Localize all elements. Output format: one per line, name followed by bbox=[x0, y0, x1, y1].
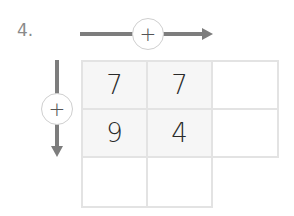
arrow-down-icon bbox=[51, 146, 63, 157]
grid-cell-r1-c2-answer[interactable] bbox=[211, 108, 279, 158]
horizontal-plus-operator: + bbox=[132, 18, 164, 50]
grid-cell-r2-c0-answer[interactable] bbox=[81, 156, 148, 208]
grid-cell-r0-c1: 7 bbox=[146, 60, 213, 110]
addition-grid: 7 7 9 4 bbox=[81, 60, 279, 208]
problem-number: 4. bbox=[17, 20, 33, 40]
grid-cell-r2-c1-answer[interactable] bbox=[146, 156, 213, 208]
grid-cell-r1-c1: 4 bbox=[146, 108, 213, 158]
grid-cell-r0-c2-answer[interactable] bbox=[211, 60, 279, 110]
arrow-right-icon bbox=[202, 28, 213, 40]
grid-cell-r0-c0: 7 bbox=[81, 60, 148, 110]
grid-cell-r1-c0: 9 bbox=[81, 108, 148, 158]
vertical-plus-operator: + bbox=[41, 93, 73, 125]
